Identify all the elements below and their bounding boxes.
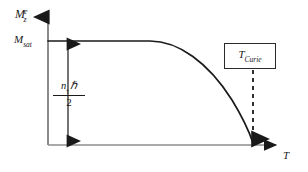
curie-label-subscript: Curie <box>245 55 262 64</box>
magnitude-fraction-label: n↑ℏ 2 <box>50 80 88 108</box>
y-axis-label: Mez <box>15 7 32 23</box>
y-axis-label-subscript: z <box>24 15 27 24</box>
fraction-denominator: 2 <box>50 96 88 108</box>
magnetization-vs-temperature-figure: Mez Msat n↑ℏ 2 TCurie T <box>0 0 308 172</box>
x-axis-label: T <box>283 150 289 161</box>
saturation-label-subscript: sat <box>23 40 32 49</box>
fraction-numerator-hbar: ℏ <box>70 79 77 91</box>
spin-up-arrow-icon: ↑ <box>65 87 69 96</box>
saturation-tick-label: Msat <box>14 34 32 48</box>
fraction-numerator: n↑ℏ <box>50 80 88 95</box>
saturation-label-base: M <box>14 33 23 45</box>
curie-label-base: T <box>238 48 244 60</box>
curie-callout-label: TCurie <box>228 49 272 63</box>
figure-canvas <box>0 0 308 172</box>
